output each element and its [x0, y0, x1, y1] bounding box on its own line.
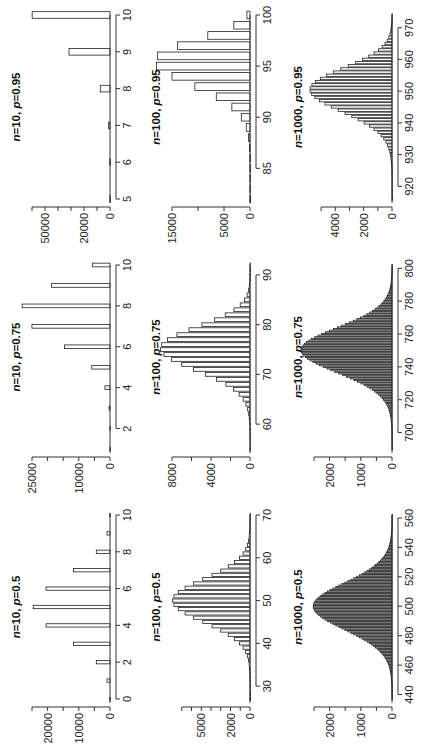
panel-n-100-p-0-95: n=100, p=0.958590951000500015000 — [150, 6, 273, 244]
bar-k-7 — [32, 324, 110, 328]
y-axis: 020004000 — [321, 207, 398, 237]
bar-k-95 — [156, 62, 250, 70]
bar-k-939 — [369, 125, 392, 127]
bar-k-9 — [51, 284, 110, 288]
bar-k-499 — [313, 607, 392, 608]
bar-k-10 — [32, 12, 110, 19]
x-tick-label: 70 — [261, 509, 273, 521]
bar-k-941 — [358, 119, 392, 121]
bar-k-963 — [379, 49, 392, 51]
x-tick-label: 8 — [121, 549, 133, 555]
bar-k-769 — [357, 319, 392, 320]
x-tick-label: 7 — [121, 122, 133, 128]
bar-k-465 — [385, 657, 392, 658]
bars — [156, 11, 250, 203]
bar-k-471 — [377, 648, 392, 649]
bar-k-500 — [313, 606, 392, 607]
bar-k-521 — [359, 575, 392, 576]
bar-k-718 — [386, 402, 392, 403]
panel-title: n=100, p=0.75 — [150, 319, 162, 395]
panel-n-100-p-0-5: n=100, p=0.53040506070020005000 — [150, 509, 273, 738]
bar-k-61 — [243, 552, 250, 555]
bar-k-949 — [312, 93, 392, 95]
bar-k-93 — [195, 83, 250, 91]
bar-k-464 — [386, 659, 392, 660]
bar-k-64 — [246, 402, 250, 406]
bar-k-467 — [383, 654, 392, 655]
bar-k-476 — [367, 641, 392, 642]
bar-k-78 — [177, 333, 250, 337]
x-tick-label: 100 — [261, 6, 273, 24]
y-axis: 020005000 — [182, 707, 256, 737]
y-axis: 02000050000 — [32, 207, 116, 244]
bar-k-764 — [337, 327, 392, 328]
panel-n-1000-p-0-75: n=1000, p=0.7570072074076078080001000200… — [292, 259, 415, 487]
bar-k-719 — [385, 401, 392, 402]
x-tick-label: 940 — [403, 114, 415, 132]
bar-k-947 — [319, 99, 392, 101]
y-tick-label: 0 — [244, 463, 256, 469]
bar-k-944 — [338, 109, 392, 111]
bar-k-960 — [362, 58, 392, 60]
bar-k-717 — [387, 404, 392, 405]
panel-n-1000-p-0-95: n=1000, p=0.9592093094095096097002000400… — [292, 14, 415, 238]
bar-k-966 — [387, 39, 392, 41]
bar-k-781 — [385, 299, 392, 300]
x-tick-label: 480 — [403, 627, 415, 645]
bar-k-3 — [73, 642, 110, 645]
bar-k-510 — [328, 591, 392, 592]
bar-k-89 — [246, 124, 250, 132]
bar-k-776 — [377, 307, 392, 308]
bar-k-494 — [319, 614, 392, 615]
bar-k-945 — [331, 106, 392, 108]
x-tick-label: 720 — [403, 391, 415, 409]
bar-k-504 — [316, 600, 392, 601]
title-n-value: =1000, — [292, 599, 304, 638]
bar-k-782 — [386, 297, 392, 298]
x-axis: 700720740760780800 — [398, 259, 415, 442]
bar-k-748 — [302, 353, 392, 354]
bar-k-537 — [387, 551, 392, 552]
bar-k-69 — [216, 378, 250, 382]
title-n-symbol: n — [150, 388, 162, 395]
bar-k-950 — [310, 90, 392, 92]
bar-k-535 — [385, 554, 392, 555]
bar-k-721 — [382, 397, 392, 398]
bars — [160, 263, 250, 451]
title-p-value: =0.75 — [150, 319, 162, 349]
x-tick-label: 460 — [403, 656, 415, 674]
bar-k-530 — [379, 562, 392, 563]
bar-k-42 — [228, 633, 250, 636]
title-n-value: =10, — [10, 109, 22, 135]
bar-k-509 — [325, 592, 392, 593]
bar-k-738 — [331, 370, 392, 371]
bar-k-479 — [359, 637, 392, 638]
bar-k-726 — [372, 389, 392, 390]
y-tick-label: 0 — [104, 713, 116, 719]
y-tick-label: 0 — [244, 713, 256, 719]
bar-k-470 — [379, 650, 392, 651]
panel-n-10-p-0-75: n=10, p=0.7524681001000025000 — [10, 259, 133, 494]
panel-n-1000-p-0-5: n=1000, p=0.5440460480500520540560010002… — [292, 509, 415, 738]
bar-k-935 — [384, 138, 392, 140]
title-n-symbol: n — [292, 638, 304, 645]
bar-k-956 — [333, 71, 392, 73]
x-axis: 920930940950960970 — [398, 19, 415, 196]
bar-k-735 — [343, 374, 392, 375]
bar-k-522 — [362, 573, 392, 574]
title-p-value: =0.95 — [292, 65, 304, 95]
bar-k-497 — [315, 610, 392, 611]
bar-k-934 — [386, 141, 392, 143]
bar-k-731 — [358, 381, 392, 382]
bar-k-4 — [105, 386, 110, 390]
bar-k-534 — [384, 556, 392, 557]
panel-n-10-p-0-95: n=10, p=0.95567891002000050000 — [10, 9, 133, 244]
title-n-symbol: n — [10, 135, 22, 142]
bar-k-752 — [302, 347, 392, 348]
bar-k-484 — [345, 629, 392, 630]
y-tick-label: 50000 — [39, 213, 51, 244]
x-tick-label: 30 — [261, 680, 273, 692]
bar-k-779 — [383, 302, 392, 303]
bar-k-75 — [160, 348, 250, 352]
y-axis: 01000020000 — [32, 707, 116, 744]
